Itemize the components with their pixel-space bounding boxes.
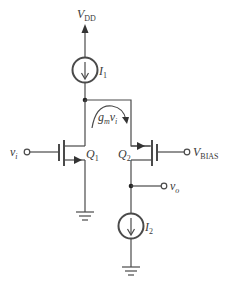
circuit-diagram: VDD I1 gmvi Q1 Q2 vi VBIAS vo I2 <box>0 0 232 287</box>
current-source-i1-icon <box>73 58 98 101</box>
gm-vi-label: gmvi <box>98 110 117 126</box>
vdd-arrow <box>82 24 89 57</box>
i1-label: I1 <box>98 64 107 80</box>
transistor-q2-icon <box>131 140 184 213</box>
output-label: vo <box>170 179 179 195</box>
q1-label: Q1 <box>86 147 99 163</box>
vdd-label: VDD <box>77 7 96 23</box>
bias-terminal[interactable] <box>184 149 190 155</box>
i2-label: I2 <box>144 220 153 236</box>
output-terminal[interactable] <box>161 183 167 189</box>
transistor-q1-icon <box>30 140 85 212</box>
ground-icon <box>76 212 94 220</box>
vbias-label: VBIAS <box>193 145 219 161</box>
output-node <box>129 184 161 189</box>
ground-icon <box>122 267 140 275</box>
input-label: vi <box>10 145 18 161</box>
input-terminal[interactable] <box>24 149 30 155</box>
q2-label: Q2 <box>118 147 131 163</box>
current-source-i2-icon <box>119 214 144 268</box>
